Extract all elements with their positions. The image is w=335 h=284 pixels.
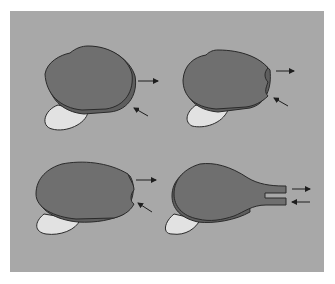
body-3 bbox=[36, 162, 134, 219]
arrow-in-1 bbox=[134, 108, 148, 116]
stage-4 bbox=[165, 164, 310, 235]
arrow-in-3 bbox=[138, 203, 152, 212]
diagram-svg bbox=[0, 0, 335, 284]
body-1 bbox=[45, 46, 132, 110]
stage-2 bbox=[183, 50, 294, 127]
arrow-in-2 bbox=[274, 98, 288, 106]
stage-3 bbox=[36, 162, 156, 234]
body-2 bbox=[183, 50, 268, 109]
body-4 bbox=[174, 164, 286, 221]
stage-1 bbox=[45, 46, 158, 130]
